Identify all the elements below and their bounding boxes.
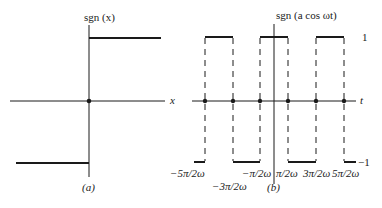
level-high-label: 1 — [362, 32, 368, 43]
tick-label-neg-5pi: −5π/2ω — [170, 168, 205, 179]
tick-label-neg-3pi: −3π/2ω — [212, 181, 247, 192]
origin-dot — [87, 99, 92, 104]
panel-a-plot — [10, 25, 165, 177]
level-low-label: −1 — [358, 157, 370, 168]
tick-label-neg-pi: −π/2ω — [242, 168, 271, 179]
tick-label-3pi: 3π/2ω — [303, 168, 330, 179]
panel-b-t-label: t — [360, 95, 363, 106]
panel-b-title: sgn (a cos ωt) — [276, 10, 337, 21]
panel-a-title: sgn (x) — [84, 12, 115, 23]
tick-label-5pi: 5π/2ω — [332, 168, 359, 179]
tick-label-pi: π/2ω — [276, 168, 298, 179]
panel-a-caption: (a) — [82, 182, 95, 193]
panel-b-plot — [192, 24, 356, 184]
panel-b-caption: (b) — [267, 182, 280, 193]
panel-a-x-label: x — [170, 95, 175, 106]
